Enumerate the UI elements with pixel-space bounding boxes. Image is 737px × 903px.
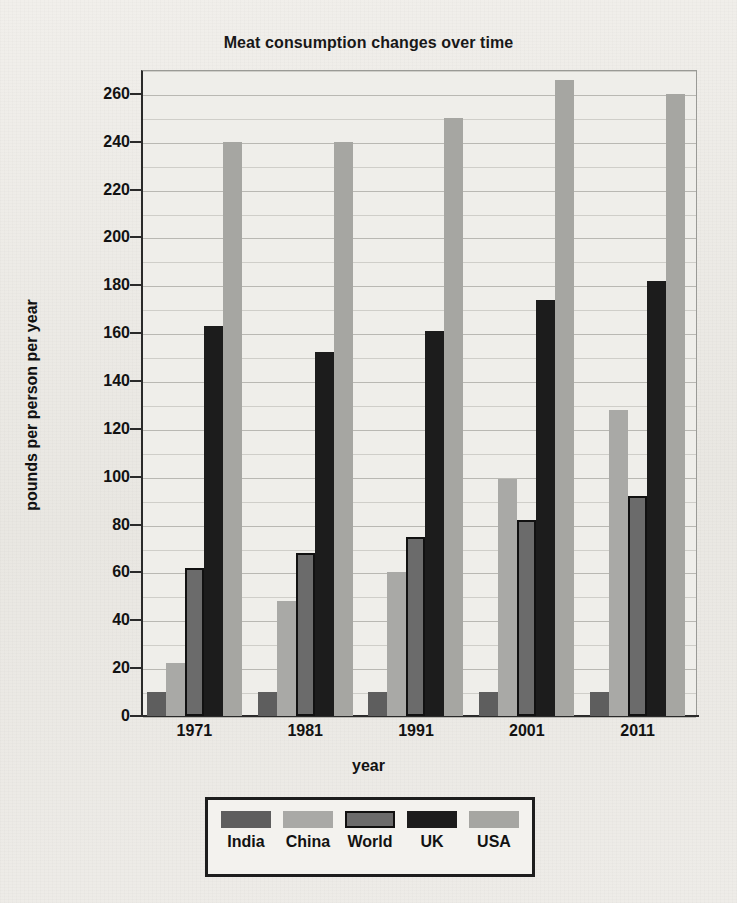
y-axis-tick-labels: 020406080100120140160180200220240260 bbox=[70, 70, 130, 716]
bar-uk-1971[interactable] bbox=[204, 326, 223, 716]
y-axis-title: pounds per person per year bbox=[23, 85, 41, 725]
legend-item-uk[interactable]: UK bbox=[401, 811, 463, 851]
legend-label: China bbox=[286, 833, 330, 851]
legend-label: USA bbox=[477, 833, 511, 851]
legend-label: World bbox=[347, 833, 392, 851]
y-axis-tick-label: 20 bbox=[74, 659, 130, 677]
y-axis-tick-label: 260 bbox=[74, 85, 130, 103]
x-axis-tick-label: 2001 bbox=[509, 722, 545, 740]
y-axis-tick-label: 40 bbox=[74, 611, 130, 629]
y-axis-tick-label: 200 bbox=[74, 228, 130, 246]
y-axis-tick-mark bbox=[130, 141, 141, 143]
bar-china-1971[interactable] bbox=[166, 663, 185, 716]
bar-usa-2001[interactable] bbox=[555, 80, 574, 716]
x-axis-tick-label: 1971 bbox=[177, 722, 213, 740]
legend-item-china[interactable]: China bbox=[277, 811, 339, 851]
legend-swatch-india bbox=[221, 811, 271, 828]
bar-series-container bbox=[143, 70, 697, 716]
y-axis-tick-label: 120 bbox=[74, 420, 130, 438]
legend-swatch-uk bbox=[407, 811, 457, 828]
legend-label: India bbox=[227, 833, 264, 851]
legend-item-usa[interactable]: USA bbox=[463, 811, 525, 851]
y-axis-tick-mark bbox=[130, 332, 141, 334]
legend-label: UK bbox=[420, 833, 443, 851]
x-axis-title: year bbox=[0, 757, 737, 775]
bar-india-1981[interactable] bbox=[258, 692, 277, 716]
bar-india-1971[interactable] bbox=[147, 692, 166, 716]
legend-swatch-world bbox=[345, 811, 395, 828]
y-axis-tick-mark bbox=[130, 571, 141, 573]
bar-india-1991[interactable] bbox=[368, 692, 387, 716]
bar-usa-1991[interactable] bbox=[444, 118, 463, 716]
y-axis-tick-mark bbox=[130, 380, 141, 382]
legend-swatch-china bbox=[283, 811, 333, 828]
y-axis-tick-label: 100 bbox=[74, 468, 130, 486]
x-axis-tick-label: 1981 bbox=[287, 722, 323, 740]
bar-uk-1981[interactable] bbox=[315, 352, 334, 716]
bar-india-2001[interactable] bbox=[479, 692, 498, 716]
chart-title: Meat consumption changes over time bbox=[0, 34, 737, 52]
bar-china-1991[interactable] bbox=[387, 572, 406, 716]
y-axis-tick-label: 140 bbox=[74, 372, 130, 390]
y-axis-tick-label: 80 bbox=[74, 516, 130, 534]
legend-item-india[interactable]: India bbox=[215, 811, 277, 851]
bar-group bbox=[365, 70, 476, 716]
bar-china-1981[interactable] bbox=[277, 601, 296, 716]
y-axis-tick-label: 60 bbox=[74, 563, 130, 581]
bar-usa-1981[interactable] bbox=[334, 142, 353, 716]
legend-swatch-usa bbox=[469, 811, 519, 828]
bar-world-2011[interactable] bbox=[628, 496, 647, 716]
y-axis-tick-label: 220 bbox=[74, 181, 130, 199]
y-axis-tick-mark bbox=[130, 524, 141, 526]
y-axis-tick-mark bbox=[130, 93, 141, 95]
y-axis-tick-label: 240 bbox=[74, 133, 130, 151]
bar-group bbox=[143, 70, 254, 716]
y-axis-tick-mark bbox=[130, 189, 141, 191]
y-axis-tick-label: 180 bbox=[74, 276, 130, 294]
bar-china-2001[interactable] bbox=[498, 479, 517, 716]
bar-group bbox=[254, 70, 365, 716]
x-axis-tick-labels: 19711981199120012011 bbox=[143, 722, 697, 748]
y-axis-tick-label: 160 bbox=[74, 324, 130, 342]
chart-legend: IndiaChinaWorldUKUSA bbox=[205, 797, 535, 877]
bar-world-1971[interactable] bbox=[185, 568, 204, 716]
legend-item-world[interactable]: World bbox=[339, 811, 401, 851]
gridline-major bbox=[143, 717, 696, 718]
bar-world-2001[interactable] bbox=[517, 520, 536, 716]
y-axis-tick-marks bbox=[130, 70, 143, 716]
bar-world-1991[interactable] bbox=[406, 537, 425, 716]
bar-group bbox=[586, 70, 697, 716]
x-axis-tick-label: 1991 bbox=[398, 722, 434, 740]
bar-uk-2011[interactable] bbox=[647, 281, 666, 716]
x-axis-tick-label: 2011 bbox=[620, 722, 655, 740]
y-axis-tick-label: 0 bbox=[74, 707, 130, 725]
y-axis-tick-mark bbox=[130, 476, 141, 478]
bar-china-2011[interactable] bbox=[609, 410, 628, 716]
bar-india-2011[interactable] bbox=[590, 692, 609, 716]
y-axis-tick-mark bbox=[130, 667, 141, 669]
bar-uk-1991[interactable] bbox=[425, 331, 444, 716]
bar-uk-2001[interactable] bbox=[536, 300, 555, 716]
bar-usa-2011[interactable] bbox=[666, 94, 685, 716]
y-axis-tick-mark bbox=[130, 236, 141, 238]
y-axis-tick-mark bbox=[130, 284, 141, 286]
bar-group bbox=[475, 70, 586, 716]
chart-figure: Meat consumption changes over time 02040… bbox=[0, 0, 737, 903]
bar-usa-1971[interactable] bbox=[223, 142, 242, 716]
bar-world-1981[interactable] bbox=[296, 553, 315, 716]
y-axis-tick-mark bbox=[130, 428, 141, 430]
y-axis-tick-mark bbox=[130, 715, 141, 717]
y-axis-tick-mark bbox=[130, 619, 141, 621]
